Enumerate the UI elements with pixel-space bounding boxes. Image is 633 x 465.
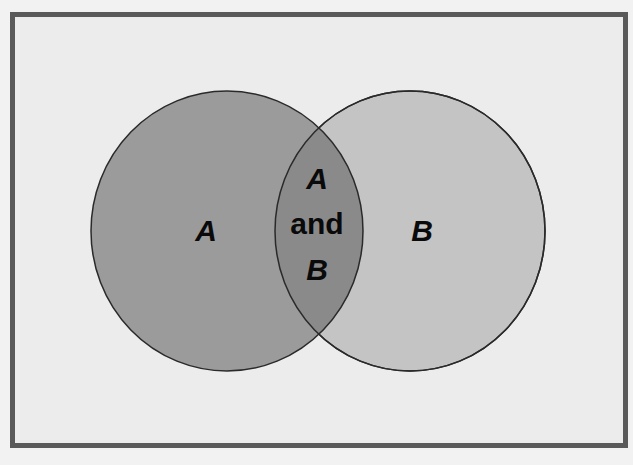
set-b-label: B	[411, 214, 433, 247]
intersection-label-a: A	[305, 162, 328, 195]
intersection-label-and: and	[290, 207, 343, 240]
set-a-label: A	[194, 214, 217, 247]
intersection-label-b: B	[306, 253, 328, 286]
venn-diagram: A B A and B	[0, 0, 633, 465]
